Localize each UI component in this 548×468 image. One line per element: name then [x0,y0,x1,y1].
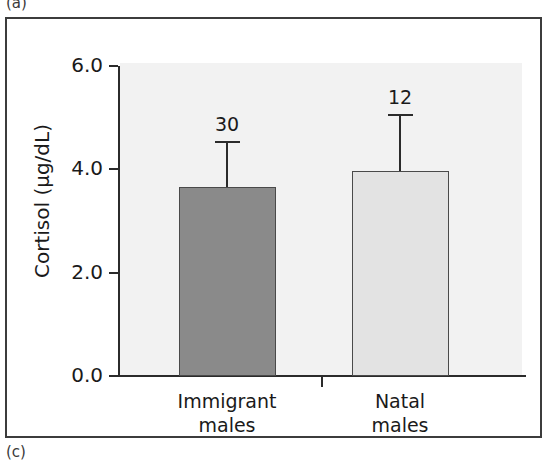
y-axis-tick [109,168,118,170]
y-axis-tick-label: 0.0 [51,365,103,385]
error-bar-stem [226,141,228,188]
x-axis-category-label-line: Natal [375,390,425,412]
x-axis-category-label-line: males [137,413,317,437]
figure-frame: Cortisol (µg/dL) 0.02.04.06.0 3012 Immig… [5,17,542,438]
y-axis-tick-label-wrap: 2.0 [37,262,103,282]
x-axis-category-label: Immigrantmales [137,389,317,437]
bar-sample-size-label: 30 [187,115,267,134]
error-bar-stem [399,114,401,172]
y-axis-tick-label-wrap: 6.0 [37,55,103,75]
y-axis-title: Cortisol (µg/dL) [30,71,54,331]
y-axis-tick-label: 2.0 [51,262,103,282]
error-bar-cap [388,114,413,116]
y-axis-tick-label-wrap: 0.0 [37,365,103,385]
y-axis-tick [109,375,118,377]
y-axis-tick-label: 4.0 [51,158,103,178]
y-axis-tick [109,272,118,274]
panel-letter-a: (a) [6,0,27,12]
x-axis-tick-middle [321,376,323,387]
panel-letter-c: (c) [6,443,26,461]
bar-immigrant-males [179,187,276,376]
bar-natal-males [352,171,449,376]
y-axis-tick [109,65,118,67]
x-axis-category-label-line: Immigrant [178,390,277,412]
y-axis-tick-label: 6.0 [51,55,103,75]
error-bar-cap [215,141,240,143]
y-axis-tick-label-wrap: 4.0 [37,158,103,178]
bar-sample-size-label: 12 [360,88,440,107]
y-axis-line [118,66,120,377]
x-axis-category-label-line: males [310,413,490,437]
x-axis-category-label: Natalmales [310,389,490,437]
